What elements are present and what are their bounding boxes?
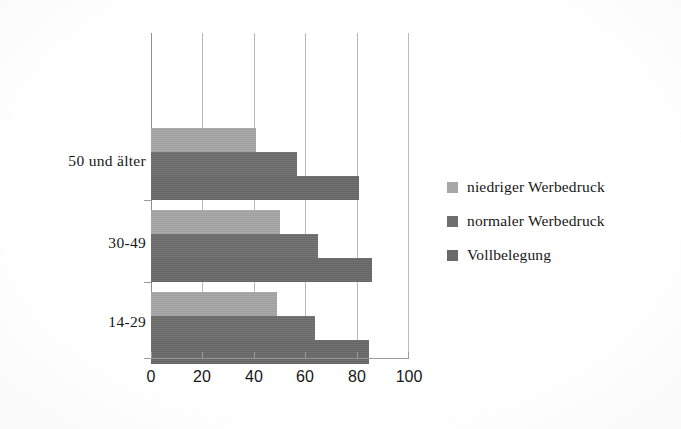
bar-50-und-aelter-niedriger-werbedruck xyxy=(151,128,256,152)
category-label-50-und-aelter: 50 und älter xyxy=(6,152,146,170)
x-tick-label-100: 100 xyxy=(379,368,439,386)
bar-14-29-normaler-werbedruck xyxy=(151,316,315,340)
legend-label-normaler-werbedruck: normaler Werbedruck xyxy=(467,212,605,230)
x-axis-line xyxy=(151,358,409,359)
category-label-14-29: 14-29 xyxy=(6,313,146,331)
legend-swatch-icon-vollbelegung xyxy=(447,250,458,261)
bar-14-29-vollbelegung xyxy=(151,340,369,364)
legend-swatch-icon-normaler-werbedruck xyxy=(447,216,458,227)
x-tick-60 xyxy=(305,352,306,359)
bar-chart: 50 und älter 30-49 14-29 0 20 40 60 80 1… xyxy=(0,0,681,429)
category-axis: 50 und älter 30-49 14-29 xyxy=(0,0,146,429)
bar-30-49-niedriger-werbedruck xyxy=(151,210,280,234)
x-tick-0 xyxy=(151,352,152,359)
x-tick-40 xyxy=(254,352,255,359)
legend-item-niedriger-werbedruck: niedriger Werbedruck xyxy=(447,178,677,196)
legend-item-vollbelegung: Vollbelegung xyxy=(447,246,677,264)
gridline-100 xyxy=(408,33,409,358)
bar-50-und-aelter-normaler-werbedruck xyxy=(151,152,297,176)
bar-14-29-niedriger-werbedruck xyxy=(151,292,277,316)
x-tick-label-80: 80 xyxy=(327,368,387,386)
legend-label-vollbelegung: Vollbelegung xyxy=(467,246,551,264)
plot-area xyxy=(151,33,408,358)
chart-legend: niedriger Werbedruck normaler Werbedruck… xyxy=(447,178,677,280)
bar-50-und-aelter-vollbelegung xyxy=(151,176,359,200)
bar-30-49-normaler-werbedruck xyxy=(151,234,318,258)
x-tick-label-60: 60 xyxy=(275,368,335,386)
legend-swatch-icon-niedriger-werbedruck xyxy=(447,182,458,193)
legend-item-normaler-werbedruck: normaler Werbedruck xyxy=(447,212,677,230)
x-tick-100 xyxy=(408,352,409,359)
bar-30-49-vollbelegung xyxy=(151,258,372,282)
x-tick-label-20: 20 xyxy=(172,368,232,386)
x-tick-80 xyxy=(357,352,358,359)
x-tick-20 xyxy=(202,352,203,359)
category-label-30-49: 30-49 xyxy=(6,234,146,252)
legend-label-niedriger-werbedruck: niedriger Werbedruck xyxy=(467,178,605,196)
